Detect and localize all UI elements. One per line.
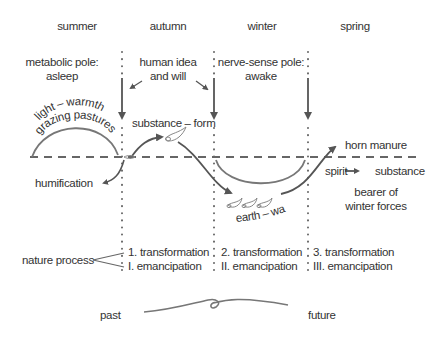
process-col-3: 3. transformation III. emancipation	[313, 245, 394, 273]
season-autumn: autumn	[150, 19, 187, 33]
pole-down-arrows	[122, 78, 308, 118]
transformation-1: 1. transformation	[128, 245, 209, 259]
humification-label: humification	[35, 176, 93, 190]
emancipation-1: I. emancipation	[128, 259, 209, 273]
horn-manure-label: horn manure	[345, 138, 407, 152]
bearer-line2: winter forces	[345, 199, 406, 213]
emancipation-3: III. emancipation	[313, 259, 394, 273]
season-summer: summer	[57, 19, 97, 33]
summer-arc	[32, 128, 118, 157]
metabolic-pole-line1: metabolic pole:	[26, 55, 99, 69]
nerve-sense-line1: nerve-sense pole:	[218, 55, 304, 69]
past-label: past	[100, 308, 121, 322]
winter-bowl	[216, 160, 305, 183]
substance-form-label: substance – form	[132, 116, 215, 130]
metabolic-pole-line2: asleep	[26, 69, 99, 83]
nature-process-label: nature process	[22, 253, 94, 267]
season-dividers	[122, 52, 308, 275]
transformation-3: 3. transformation	[313, 245, 394, 259]
spirit-label: spirit	[325, 164, 347, 178]
transformation-2: 2. transformation	[221, 245, 302, 259]
nerve-sense-pole-label: nerve-sense pole: awake	[218, 55, 304, 83]
substance-label: substance	[375, 164, 425, 178]
earth-horns-icon	[227, 198, 272, 208]
bearer-line1: bearer of	[345, 185, 406, 199]
process-col-2: 2. transformation II. emancipation	[221, 245, 302, 273]
human-idea-will-label: human idea and will	[139, 55, 196, 83]
nature-process-branch	[93, 253, 124, 267]
bearer-winter-forces-label: bearer of winter forces	[345, 185, 406, 213]
human-idea-line1: human idea	[139, 55, 196, 69]
future-label: future	[308, 308, 336, 322]
human-idea-line2: and will	[139, 69, 196, 83]
descend-arrow	[178, 142, 231, 193]
time-wave	[144, 299, 288, 312]
season-spring: spring	[340, 19, 370, 33]
nerve-sense-line2: awake	[218, 69, 304, 83]
metabolic-pole-label: metabolic pole: asleep	[26, 55, 99, 83]
diagram-graphics: light – warmth grazing pastures earth – …	[0, 0, 439, 341]
humification-arrow	[104, 160, 124, 183]
rise-to-form-arrow	[132, 137, 162, 156]
process-col-1: 1. transformation I. emancipation	[128, 245, 209, 273]
emancipation-2: II. emancipation	[221, 259, 302, 273]
season-winter: winter	[248, 19, 277, 33]
